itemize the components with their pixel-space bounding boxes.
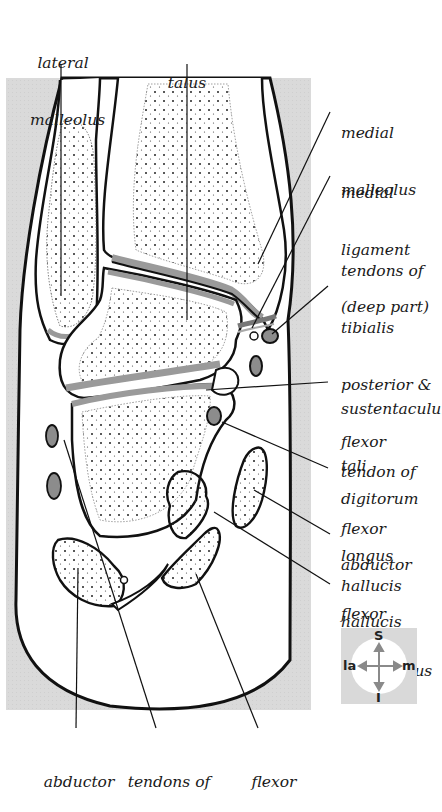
- label-line: sustentaculum: [341, 400, 442, 419]
- flexor-digitorum-longus-tendon: [250, 356, 262, 376]
- label-line: talus: [160, 74, 214, 93]
- label-line: malleolus: [30, 111, 96, 130]
- label-flexor-digitorum-brevis: flexor digitorum brevis: [228, 735, 320, 812]
- label-talus: talus: [160, 36, 214, 131]
- label-line: abductor: [34, 773, 124, 792]
- label-line: medial: [341, 184, 429, 203]
- label-line: tendon of: [341, 463, 416, 482]
- label-line: tendons of: [341, 262, 431, 281]
- peroneus-brevis-tendon: [46, 425, 58, 447]
- compass-superior: S: [374, 628, 383, 643]
- compass-lateral: la: [343, 658, 356, 673]
- label-tendons-peroneus: tendons of peroneus brevis & longus: [124, 735, 214, 812]
- label-lateral-malleolus: lateral malleolus: [30, 16, 96, 168]
- sustentaculum-tali-bone: [212, 368, 238, 395]
- flexor-hallucis-longus-tendon: [207, 407, 221, 425]
- label-line: flexor: [341, 605, 432, 624]
- orientation-compass: S I la m: [341, 628, 417, 704]
- label-line: tibialis: [341, 319, 431, 338]
- label-line: lateral: [30, 54, 96, 73]
- peroneus-longus-tendon: [47, 473, 61, 499]
- compass-inferior: I: [376, 690, 381, 705]
- label-line: tendons of: [124, 773, 214, 792]
- label-abductor-digiti-minimi: abductor digiti minimi: [34, 735, 124, 812]
- compass-medial: m: [402, 658, 416, 673]
- anatomy-figure: lateral malleolus talus medial malleolus…: [0, 0, 442, 812]
- label-line: medial: [341, 124, 416, 143]
- label-line: flexor: [228, 773, 320, 792]
